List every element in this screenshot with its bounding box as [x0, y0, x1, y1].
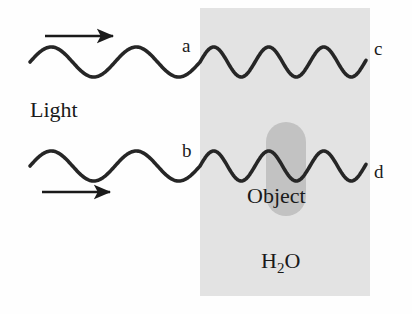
diagram-canvas: a c b d Light Object H2O [0, 0, 412, 314]
object-label: Object [247, 183, 306, 208]
physics-diagram: a c b d Light Object H2O [0, 0, 412, 314]
light-source-label: Light [30, 97, 78, 122]
wave-label-d: d [374, 161, 384, 182]
wave-label-a: a [182, 35, 191, 56]
wave-label-b: b [182, 140, 192, 161]
wave-label-c: c [374, 38, 382, 59]
